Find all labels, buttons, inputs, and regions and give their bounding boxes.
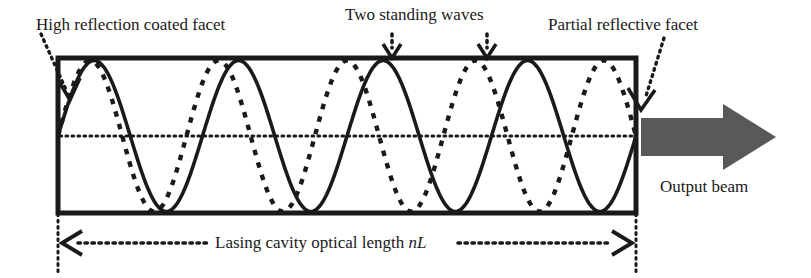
output-beam-label: Output beam xyxy=(660,178,748,195)
dimension-arrowhead-right-icon xyxy=(612,231,632,255)
cavity-length-text: Lasing cavity optical length xyxy=(215,233,409,252)
partial-reflective-facet-label: Partial reflective facet xyxy=(548,16,698,33)
high-reflection-coated-facet-label: High reflection coated facet xyxy=(36,16,225,33)
cavity-length-symbol: nL xyxy=(409,233,427,252)
cavity-length-label: Lasing cavity optical length nL xyxy=(215,234,427,251)
partial-reflective-arrowhead-icon xyxy=(628,88,655,110)
laser-cavity-diagram: High reflection coated facet Two standin… xyxy=(0,0,811,278)
partial-reflective-leader-line xyxy=(646,38,664,96)
output-beam-arrow-icon xyxy=(641,104,776,170)
two-standing-waves-label: Two standing waves xyxy=(345,6,484,23)
high-reflection-leader-line xyxy=(41,34,67,92)
